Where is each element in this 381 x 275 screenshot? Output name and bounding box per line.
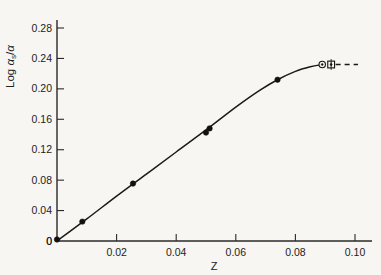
y-axis-title-divider: / — [4, 52, 16, 55]
y-axis-title-subscript: s — [9, 55, 18, 59]
figure-panel: 00.040.080.120.160.200.240.28 00.020.040… — [0, 0, 381, 275]
x-tick-label: 0.10 — [345, 246, 366, 258]
y-axis-title-alpha: α — [4, 59, 16, 66]
y-tick-label: 0.08 — [32, 174, 53, 186]
scatter-plot-canvas: 00.040.080.120.160.200.240.28 00.020.040… — [0, 0, 381, 275]
data-point-filled — [80, 219, 85, 224]
data-point-filled — [207, 126, 212, 131]
data-point-open-circle-center — [321, 64, 323, 66]
y-axis-ticks — [57, 28, 64, 211]
y-tick-label: 0.16 — [32, 113, 53, 125]
y-tick-label: 0.28 — [32, 22, 53, 34]
x-tick-label: 0.06 — [226, 246, 247, 258]
y-tick-label: 0.24 — [32, 52, 53, 64]
y-tick-label: 0.04 — [32, 204, 53, 216]
y-axis-tick-labels: 00.040.080.120.160.200.240.28 — [32, 22, 53, 247]
y-tick-label: 0.20 — [32, 82, 53, 94]
y-axis-title-alpha2: α — [4, 45, 16, 52]
y-axis-title: Log αs/α — [4, 45, 18, 88]
fitted-curve — [57, 65, 322, 241]
x-tick-label: 0.02 — [106, 246, 127, 258]
data-point-square-center — [330, 64, 332, 66]
data-point-filled — [275, 77, 280, 82]
data-point-markers — [54, 59, 334, 242]
x-axis-title: Z — [211, 260, 218, 272]
y-tick-label: 0.12 — [32, 143, 53, 155]
data-point-filled — [130, 181, 135, 186]
x-tick-label: 0 — [46, 235, 52, 247]
x-tick-label: 0.04 — [166, 246, 187, 258]
x-axis-ticks — [117, 234, 355, 241]
x-tick-label: 0.08 — [285, 246, 306, 258]
y-axis-title-prefix: Log — [4, 66, 16, 88]
x-axis-tick-labels: 00.020.040.060.080.10 — [46, 235, 365, 259]
data-point-filled — [54, 237, 59, 242]
